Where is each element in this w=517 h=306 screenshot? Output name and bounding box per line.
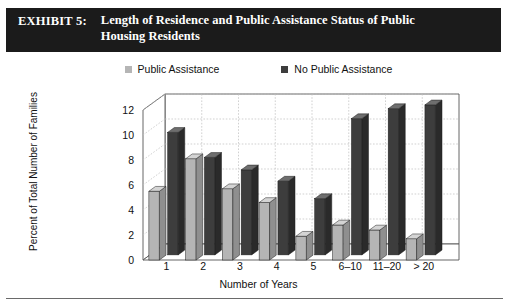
square-swatch-icon: [281, 66, 288, 73]
legend-item-public-assistance: Public Assistance: [125, 63, 220, 75]
y-axis-tick-12: 12: [112, 104, 134, 116]
x-axis-tick-5: 5: [311, 260, 317, 272]
y-axis-tick-8: 8: [112, 154, 134, 166]
y-axis-title: Percent of Total Number of Families: [28, 92, 39, 252]
exhibit-title-line-1: Length of Residence and Public Assistanc…: [101, 13, 415, 27]
x-axis-tick-labels: 123456–1011–20> 20: [137, 260, 467, 276]
exhibit-title-bar: EXHIBIT 5: Length of Residence and Publi…: [6, 8, 501, 52]
x-axis-tick-7: 11–20: [373, 260, 401, 272]
plot-region: [137, 82, 467, 282]
y-axis-tick-labels: 024681012: [112, 82, 134, 282]
y-axis-tick-2: 2: [112, 229, 134, 241]
y-axis-tick-4: 4: [112, 204, 134, 216]
legend-label-public-assistance: Public Assistance: [138, 63, 220, 75]
title-row: EXHIBIT 5: Length of Residence and Publi…: [18, 13, 491, 44]
chart-area: Percent of Total Number of Families 0246…: [0, 82, 517, 282]
x-axis-tick-8: > 20: [413, 260, 434, 272]
chart-legend: Public Assistance No Public Assistance: [0, 63, 517, 75]
square-swatch-icon: [125, 66, 132, 73]
x-axis-tick-1: 1: [164, 260, 170, 272]
x-axis-tick-2: 2: [200, 260, 206, 272]
x-axis-tick-3: 3: [237, 260, 243, 272]
exhibit-number-label: EXHIBIT 5:: [18, 13, 87, 29]
x-axis-tick-4: 4: [274, 260, 280, 272]
bar-chart-svg: [137, 82, 467, 282]
bottom-divider: [6, 298, 503, 299]
legend-label-no-public-assistance: No Public Assistance: [294, 63, 392, 75]
x-axis-tick-6: 6–10: [339, 260, 362, 272]
legend-item-no-public-assistance: No Public Assistance: [281, 63, 392, 75]
exhibit-title-line-2: Housing Residents: [101, 29, 200, 43]
exhibit-title-text: Length of Residence and Public Assistanc…: [101, 13, 415, 44]
y-axis-tick-6: 6: [112, 179, 134, 191]
y-axis-tick-10: 10: [112, 129, 134, 141]
x-axis-title: Number of Years: [0, 278, 517, 290]
y-axis-tick-0: 0: [112, 254, 134, 266]
